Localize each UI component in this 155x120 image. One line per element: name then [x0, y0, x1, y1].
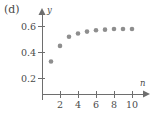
x-tick-label-2: 6	[93, 99, 99, 110]
data-point	[76, 31, 81, 36]
data-point	[121, 27, 126, 32]
x-tick-label-0: 2	[57, 99, 63, 110]
x-axis-label: n	[140, 78, 145, 88]
scatter-plot: 0.6 0.4 0.2 2 4 6 8 10 y n	[0, 0, 155, 120]
x-tick-label-4: 10	[126, 99, 138, 110]
y-axis-label: y	[46, 5, 52, 15]
data-point	[112, 27, 117, 32]
x-tick-label-1: 4	[75, 99, 81, 110]
x-axis-arrow-icon	[143, 91, 150, 98]
figure-panel-d: (d) 0.6 0.4 0.2	[0, 0, 155, 120]
y-axis-arrow-icon	[39, 8, 46, 15]
data-point	[103, 27, 108, 32]
data-points	[49, 27, 135, 64]
data-point	[130, 27, 135, 32]
y-tick-label-2: 0.2	[21, 73, 36, 84]
y-tick-label-0: 0.6	[21, 21, 36, 32]
data-point	[49, 59, 54, 64]
x-axis-tick-labels: 2 4 6 8 10	[57, 99, 138, 110]
x-tick-label-3: 8	[111, 99, 117, 110]
data-point	[58, 44, 63, 49]
y-tick-label-1: 0.4	[21, 47, 36, 58]
y-axis-tick-labels: 0.6 0.4 0.2	[21, 21, 36, 84]
data-point	[67, 35, 72, 40]
data-point	[85, 29, 90, 34]
data-point	[94, 28, 99, 33]
